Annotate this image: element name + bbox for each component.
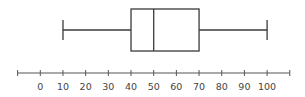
tick-label: 100 — [258, 81, 276, 92]
tick-label: 30 — [102, 81, 114, 92]
box-plot — [63, 9, 267, 51]
tick-label: 10 — [57, 81, 69, 92]
tick-label: 40 — [125, 81, 137, 92]
tick-label: 90 — [238, 81, 250, 92]
tick-label: 0 — [37, 81, 43, 92]
tick-label: 60 — [170, 81, 182, 92]
box-plot-chart: 0102030405060708090100 — [0, 0, 305, 97]
number-line-axis: 0102030405060708090100 — [18, 70, 290, 92]
tick-label: 20 — [80, 81, 92, 92]
tick-label: 50 — [148, 81, 160, 92]
interquartile-box — [131, 9, 199, 51]
tick-label: 70 — [193, 81, 205, 92]
tick-label: 80 — [216, 81, 228, 92]
